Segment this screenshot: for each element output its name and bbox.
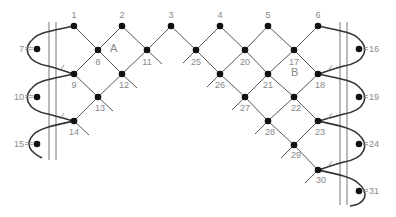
pin-node-27 xyxy=(242,94,249,101)
edge-3-25 xyxy=(171,26,196,50)
pin-label-30: 30 xyxy=(316,175,326,185)
pin-node-18 xyxy=(315,71,322,78)
pin-label-31: 31 xyxy=(369,186,379,196)
pin-label-20: 20 xyxy=(240,57,250,67)
rope-loop xyxy=(29,121,74,158)
pin-label-13: 13 xyxy=(95,103,105,113)
pin-label-4: 4 xyxy=(217,10,222,20)
pin-label-6: 6 xyxy=(315,10,320,20)
edge-1-8 xyxy=(74,26,98,50)
pin-label-14: 14 xyxy=(69,127,79,137)
pin-node-8 xyxy=(95,47,102,54)
pin-node-26 xyxy=(217,71,224,78)
pin-label-16: 16 xyxy=(369,44,379,54)
pin-node-19 xyxy=(356,94,363,101)
pin-node-4 xyxy=(217,23,224,30)
pin-label-5: 5 xyxy=(265,10,270,20)
pin-node-2 xyxy=(119,23,126,30)
pin-node-21 xyxy=(265,71,272,78)
edge-20-5 xyxy=(245,26,268,50)
pin-node-28 xyxy=(265,118,272,125)
pin-nodes xyxy=(34,23,363,195)
edge-5-17 xyxy=(268,26,294,50)
pin-node-15 xyxy=(34,141,41,148)
pin-label-10: 10 xyxy=(14,92,24,102)
pin-node-16 xyxy=(356,46,363,53)
edge-25-4 xyxy=(196,26,220,50)
pin-label-3: 3 xyxy=(168,10,173,20)
region-label-A: A xyxy=(110,42,118,54)
pin-label-9: 9 xyxy=(71,80,76,90)
pin-node-1 xyxy=(71,23,78,30)
pin-label-2: 2 xyxy=(119,10,124,20)
pin-label-15: 15 xyxy=(14,139,24,149)
stub-lines xyxy=(74,50,318,183)
pin-node-11 xyxy=(144,47,151,54)
pin-node-22 xyxy=(291,94,298,101)
pin-label-27: 27 xyxy=(240,103,250,113)
edge-4-20 xyxy=(220,26,245,50)
pin-label-19: 19 xyxy=(369,92,379,102)
pin-node-5 xyxy=(265,23,272,30)
pin-node-12 xyxy=(119,71,126,78)
pin-node-24 xyxy=(356,141,363,148)
pin-node-10 xyxy=(34,94,41,101)
pin-label-29: 29 xyxy=(291,150,301,160)
pin-label-8: 8 xyxy=(95,57,100,67)
pin-node-20 xyxy=(242,47,249,54)
pin-label-11: 11 xyxy=(142,57,151,67)
pin-node-25 xyxy=(193,47,200,54)
edge-2-11 xyxy=(122,26,147,50)
pin-label-23: 23 xyxy=(315,127,325,137)
pin-node-3 xyxy=(168,23,175,30)
pin-label-12: 12 xyxy=(119,80,129,90)
pin-node-9 xyxy=(71,71,78,78)
pin-node-31 xyxy=(356,188,363,195)
pin-label-18: 18 xyxy=(315,80,325,90)
pin-label-21: 21 xyxy=(263,80,273,90)
edge-11-3 xyxy=(147,26,171,50)
edge-17-6 xyxy=(294,26,318,50)
pin-node-6 xyxy=(315,23,322,30)
pin-label-26: 26 xyxy=(215,80,225,90)
pin-label-24: 24 xyxy=(369,139,379,149)
pin-label-7: 7 xyxy=(19,44,24,54)
pin-node-29 xyxy=(291,142,298,149)
knot-diagram: 1234567811252017169122621181013272219142… xyxy=(0,0,396,217)
region-label-B: B xyxy=(291,66,298,78)
edge-9-13 xyxy=(74,74,98,97)
pin-node-14 xyxy=(71,118,78,125)
pin-label-22: 22 xyxy=(291,103,301,113)
pin-label-28: 28 xyxy=(265,127,275,137)
pin-label-1: 1 xyxy=(71,10,76,20)
pin-node-13 xyxy=(95,94,102,101)
pin-node-30 xyxy=(315,167,322,174)
pin-label-25: 25 xyxy=(191,57,201,67)
pin-node-23 xyxy=(315,118,322,125)
pin-node-17 xyxy=(291,47,298,54)
pin-node-7 xyxy=(34,46,41,53)
edge-8-9 xyxy=(74,50,98,74)
